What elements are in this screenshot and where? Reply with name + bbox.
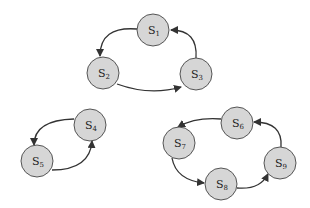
edge-s1-s2 [100,29,137,56]
state-node-s3: S3 [180,58,212,90]
state-node-s1: S1 [137,14,169,46]
edge-s9-s6 [254,122,281,147]
state-node-s2: S2 [87,57,119,89]
state-node-s9: S9 [264,147,296,179]
edge-s7-s8 [172,158,204,183]
state-node-s5: S5 [21,145,53,177]
state-node-s6: S6 [221,107,253,139]
edge-s2-s3 [117,84,181,91]
edge-s4-s5 [34,119,74,145]
edge-s8-s9 [237,174,268,188]
edge-s6-s7 [178,119,221,127]
state-node-s7: S7 [163,127,195,159]
state-diagram: S1 S2 S3 S4 S5 S6 S7 S8 S9 [0,0,310,208]
state-node-s4: S4 [74,109,106,141]
state-node-s8: S8 [205,168,237,200]
edge-s5-s4 [52,141,92,170]
edge-s3-s1 [171,30,196,58]
